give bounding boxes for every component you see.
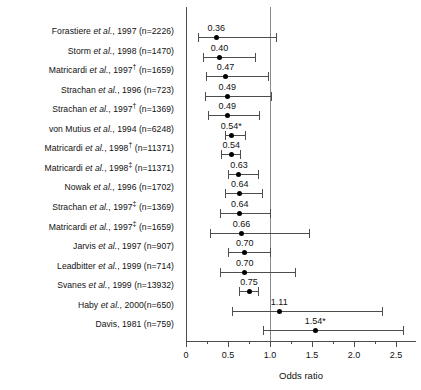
confidence-interval-bar	[203, 57, 255, 58]
confidence-interval-bar	[210, 233, 308, 234]
ci-upper-cap	[259, 111, 260, 120]
confidence-interval-bar	[228, 174, 258, 175]
ci-upper-cap	[270, 209, 271, 218]
odds-ratio-point	[225, 94, 230, 99]
x-tick-minor	[333, 341, 334, 344]
odds-ratio-value-label: 0.75	[240, 277, 258, 287]
ci-upper-cap	[255, 53, 256, 62]
x-tick-major	[354, 341, 355, 347]
x-tick-major	[270, 341, 271, 347]
odds-ratio-value-label: 0.54*	[221, 121, 242, 131]
confidence-interval-bar	[232, 311, 382, 312]
x-tick-minor	[249, 341, 250, 344]
x-tick-label: 0.5	[222, 350, 235, 360]
ci-lower-cap	[210, 229, 211, 238]
odds-ratio-point	[217, 55, 222, 60]
ci-upper-cap	[240, 150, 241, 159]
plot-area: 00.51.01.52.02.5 0.360.400.470.490.490.5…	[0, 0, 421, 390]
ci-upper-cap	[258, 287, 259, 296]
ci-upper-cap	[271, 92, 272, 101]
ci-upper-cap	[245, 131, 246, 140]
ci-upper-cap	[382, 307, 383, 316]
odds-ratio-value-label: 0.54	[223, 140, 241, 150]
forest-row: 1.54*	[0, 330, 421, 331]
odds-ratio-value-label: 0.36	[207, 23, 225, 33]
x-tick-major	[186, 341, 187, 347]
odds-ratio-point	[236, 172, 241, 177]
odds-ratio-point	[225, 113, 230, 118]
ci-upper-cap	[276, 33, 277, 42]
forest-row: 0.54*	[0, 135, 421, 136]
ci-lower-cap	[228, 170, 229, 179]
ci-lower-cap	[220, 209, 221, 218]
odds-ratio-point	[247, 289, 252, 294]
confidence-interval-bar	[208, 115, 259, 116]
odds-ratio-value-label: 1.54*	[305, 316, 326, 326]
confidence-interval-bar	[225, 193, 262, 194]
ci-lower-cap	[221, 150, 222, 159]
ci-upper-cap	[258, 170, 259, 179]
odds-ratio-point	[229, 133, 234, 138]
forest-row: 0.49	[0, 115, 421, 116]
ci-upper-cap	[270, 248, 271, 257]
confidence-interval-bar	[205, 96, 271, 97]
x-axis-title: Odds ratio	[279, 370, 323, 381]
ci-upper-cap	[268, 72, 269, 81]
confidence-interval-bar	[263, 330, 402, 331]
forest-row: 0.54	[0, 154, 421, 155]
forest-row: 0.64	[0, 193, 421, 194]
forest-row: 0.49	[0, 96, 421, 97]
forest-row: 0.47	[0, 76, 421, 77]
x-tick-major	[396, 341, 397, 347]
ci-lower-cap	[203, 53, 204, 62]
x-tick-label: 0	[183, 350, 188, 360]
odds-ratio-point	[313, 328, 318, 333]
odds-ratio-value-label: 0.40	[211, 43, 229, 53]
odds-ratio-value-label: 0.70	[236, 238, 254, 248]
ci-upper-cap	[262, 189, 263, 198]
x-tick-label: 2.5	[390, 350, 403, 360]
odds-ratio-value-label: 1.11	[271, 297, 288, 307]
ci-lower-cap	[208, 111, 209, 120]
ci-lower-cap	[220, 268, 221, 277]
ci-lower-cap	[263, 326, 264, 335]
confidence-interval-bar	[228, 252, 270, 253]
odds-ratio-value-label: 0.47	[217, 62, 235, 72]
forest-row: 0.66	[0, 233, 421, 234]
forest-row: 0.36	[0, 37, 421, 38]
confidence-interval-bar	[206, 76, 268, 77]
odds-ratio-point	[223, 74, 228, 79]
x-tick-label: 2.0	[348, 350, 361, 360]
odds-ratio-value-label: 0.64	[231, 199, 249, 209]
odds-ratio-value-label: 0.49	[218, 101, 236, 111]
x-tick-label: 1.5	[306, 350, 319, 360]
odds-ratio-value-label: 0.63	[230, 160, 248, 170]
odds-ratio-point	[237, 211, 242, 216]
odds-ratio-point	[277, 309, 282, 314]
odds-ratio-point	[237, 191, 242, 196]
ci-lower-cap	[225, 131, 226, 140]
forest-plot-figure: Forastiere et al., 1997 (n=2226)Storm et…	[0, 0, 421, 390]
ci-lower-cap	[239, 287, 240, 296]
x-tick-minor	[375, 341, 376, 344]
ci-lower-cap	[198, 33, 199, 42]
odds-ratio-point	[214, 35, 219, 40]
ci-lower-cap	[228, 248, 229, 257]
forest-row: 0.75	[0, 291, 421, 292]
ci-lower-cap	[206, 72, 207, 81]
forest-row: 1.11	[0, 311, 421, 312]
forest-row: 0.63	[0, 174, 421, 175]
x-axis-line	[186, 341, 416, 342]
odds-ratio-value-label: 0.66	[233, 219, 251, 229]
ci-lower-cap	[205, 92, 206, 101]
confidence-interval-bar	[220, 272, 296, 273]
odds-ratio-value-label: 0.64	[231, 179, 249, 189]
odds-ratio-point	[242, 270, 247, 275]
confidence-interval-bar	[198, 37, 276, 38]
ci-upper-cap	[309, 229, 310, 238]
forest-row: 0.40	[0, 57, 421, 58]
odds-ratio-point	[229, 152, 234, 157]
x-tick-label: 1.0	[264, 350, 277, 360]
x-tick-minor	[291, 341, 292, 344]
forest-row: 0.70	[0, 272, 421, 273]
